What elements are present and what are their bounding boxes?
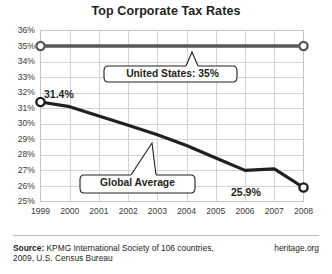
x-tick-label: 1999 bbox=[26, 206, 56, 216]
x-tick-label: 2003 bbox=[142, 206, 172, 216]
y-tick-label: 28% bbox=[3, 149, 35, 159]
x-tick-label: 2005 bbox=[201, 206, 231, 216]
plot-area bbox=[0, 0, 332, 274]
chart-figure: Top Corporate Tax Rates 36%35%34%33%32%3… bbox=[0, 0, 332, 274]
y-tick-label: 34% bbox=[3, 56, 35, 66]
start-value-label: 31.4% bbox=[44, 88, 74, 100]
y-tick-label: 25% bbox=[3, 196, 35, 206]
y-tick-label: 33% bbox=[3, 72, 35, 82]
x-tick-label: 2008 bbox=[289, 206, 319, 216]
end-value-label: 25.9% bbox=[231, 186, 261, 198]
series-endpoint-marker bbox=[36, 42, 44, 50]
y-tick-label: 31% bbox=[3, 103, 35, 113]
us-callout-label: United States: 35% bbox=[108, 68, 237, 79]
source-text: KPMG International Society of 106 countr… bbox=[13, 243, 214, 263]
y-tick-label: 32% bbox=[3, 87, 35, 97]
x-tick-label: 2006 bbox=[230, 206, 260, 216]
footer-divider bbox=[13, 235, 319, 236]
x-tick-label: 2004 bbox=[172, 206, 202, 216]
source-label: Source: bbox=[13, 243, 44, 253]
x-tick-label: 2000 bbox=[55, 206, 85, 216]
x-tick-label: 2002 bbox=[113, 206, 143, 216]
series-layer bbox=[36, 42, 307, 192]
y-tick-label: 26% bbox=[3, 181, 35, 191]
source-note: Source: KPMG International Society of 10… bbox=[13, 243, 223, 264]
global-callout-pointer bbox=[131, 143, 156, 175]
y-tick-label: 35% bbox=[3, 41, 35, 51]
global-callout-label: Global Average bbox=[80, 177, 195, 188]
y-tick-label: 29% bbox=[3, 134, 35, 144]
x-tick-label: 2007 bbox=[259, 206, 289, 216]
brand-label: heritage.org bbox=[274, 243, 319, 253]
x-tick-label: 2001 bbox=[84, 206, 114, 216]
y-tick-label: 36% bbox=[3, 25, 35, 35]
series-endpoint-marker bbox=[299, 42, 307, 50]
series-endpoint-marker bbox=[299, 183, 307, 191]
y-tick-label: 30% bbox=[3, 118, 35, 128]
y-tick-label: 27% bbox=[3, 165, 35, 175]
